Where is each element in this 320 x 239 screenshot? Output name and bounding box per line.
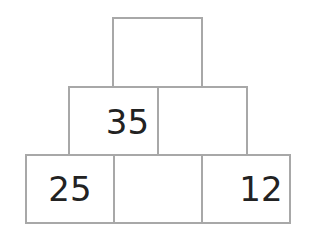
pyramid-bottom-left-cell: 25 [25,154,115,224]
pyramid-bottom-right-cell: 12 [201,154,291,224]
pyramid-top-cell [112,17,203,88]
pyramid-middle-left-cell: 35 [68,86,159,157]
pyramid-bottom-middle-cell [113,154,203,224]
pyramid-middle-right-cell [157,86,248,157]
